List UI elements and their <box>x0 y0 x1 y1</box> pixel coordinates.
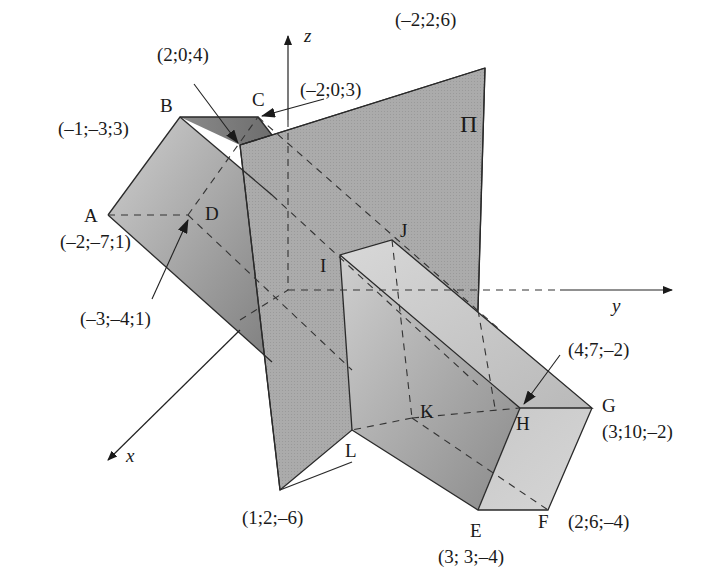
vertex-F-coord: (2;6;–4) <box>568 511 629 533</box>
vertex-H-coord: (4;7;–2) <box>568 339 629 361</box>
vertex-C-label: C <box>252 89 265 110</box>
plane-label: Π <box>460 111 477 137</box>
vertex-H-label: H <box>516 413 530 434</box>
vertex-L-label: L <box>345 440 357 461</box>
vertex-A-label: A <box>84 205 98 226</box>
point-neg2-0-3-coord: (–2;0;3) <box>300 79 361 101</box>
vertex-F-label: F <box>538 511 549 532</box>
vertex-B-label: B <box>160 95 173 116</box>
x-axis-label: x <box>125 445 135 466</box>
vertex-G-label: G <box>602 395 616 416</box>
vertex-E-coord: (3; 3;–4) <box>438 546 504 568</box>
vertex-K-label: K <box>420 401 434 422</box>
x-axis <box>108 330 240 460</box>
plane-bottom-coord: (1;2;–6) <box>242 507 303 529</box>
pointer-neg2-0-3 <box>262 99 324 116</box>
diagram-canvas: z y x Π (–2;2;6) (1;2;–6) (2;0;4) (–2;0;… <box>0 0 721 579</box>
vertex-I-label: I <box>320 255 326 276</box>
vertex-E-label: E <box>470 520 482 541</box>
vertex-B-coord: (–1;–3;3) <box>58 118 129 140</box>
plane-top-coord: (–2;2;6) <box>395 9 456 31</box>
z-axis-label: z <box>303 25 312 46</box>
vertex-D-label: D <box>205 203 219 224</box>
vertex-A-coord: (–2;–7;1) <box>60 231 131 253</box>
y-axis-label: y <box>610 295 621 316</box>
point-2-0-4-coord: (2;0;4) <box>157 44 209 66</box>
vertex-J-label: J <box>400 220 407 241</box>
vertex-G-coord: (3;10;–2) <box>602 421 673 443</box>
vertex-D-coord: (–3;–4;1) <box>80 308 151 330</box>
